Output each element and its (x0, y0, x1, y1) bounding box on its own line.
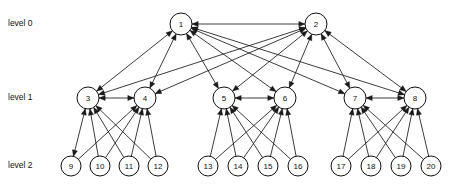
edge-1-3 (97, 31, 173, 91)
node-11[interactable]: 11 (119, 156, 139, 176)
node-label-7: 7 (353, 94, 358, 103)
node-label-5: 5 (222, 94, 227, 103)
node-12[interactable]: 12 (148, 156, 168, 176)
edge-line (244, 107, 279, 158)
node-label-14: 14 (234, 162, 243, 171)
arrowhead-to-3 (98, 90, 105, 95)
edge-line (78, 105, 137, 159)
node-9[interactable]: 9 (61, 156, 81, 176)
node-label-3: 3 (86, 94, 91, 103)
node-label-20: 20 (427, 162, 436, 171)
arrowhead-to-3 (88, 109, 93, 116)
node-14[interactable]: 14 (228, 156, 248, 176)
edge-2-3 (98, 27, 305, 95)
arrowhead-to-6 (269, 86, 276, 92)
node-3[interactable]: 3 (77, 87, 99, 109)
edge-2-4 (155, 28, 306, 93)
edge-4-12 (146, 109, 156, 156)
arrowhead-to-4 (128, 95, 134, 100)
node-20[interactable]: 20 (421, 156, 441, 176)
arrowhead-to-5 (218, 109, 223, 116)
edge-4-9 (78, 105, 137, 159)
arrowhead-to-6 (286, 109, 291, 116)
level-label-level-2: level 2 (8, 160, 33, 170)
edge-2-5 (233, 31, 308, 91)
edge-6-14 (244, 107, 279, 158)
node-label-8: 8 (413, 94, 418, 103)
edge-7-19 (361, 107, 395, 158)
arrowhead-to-2 (321, 34, 326, 41)
level-label-level-1: level 1 (8, 92, 33, 102)
node-18[interactable]: 18 (361, 156, 381, 176)
node-17[interactable]: 17 (331, 156, 351, 176)
edge-line (321, 34, 350, 89)
edge-line (403, 109, 413, 156)
arrowhead-to-7 (356, 109, 361, 116)
edge-2-7 (321, 34, 350, 89)
arrowhead-to-8 (409, 109, 414, 116)
arrowhead-to-5 (233, 85, 239, 91)
arrowhead-to-4 (150, 81, 155, 88)
edge-line (418, 109, 429, 157)
edge-3-9 (72, 109, 86, 157)
edge-line (289, 34, 311, 88)
node-7[interactable]: 7 (344, 87, 366, 109)
arrowhead-to-1 (192, 21, 198, 26)
arrowhead-to-7 (349, 109, 354, 116)
node-6[interactable]: 6 (274, 87, 296, 109)
node-label-2: 2 (314, 20, 319, 29)
node-4[interactable]: 4 (134, 87, 156, 109)
edge-line (191, 27, 404, 94)
edge-4-10 (106, 107, 139, 157)
edge-line (98, 27, 305, 94)
edge-line (73, 109, 85, 157)
edge-7-8 (366, 95, 404, 100)
arrowhead-to-4 (139, 109, 144, 116)
edge-8-20 (416, 109, 428, 157)
arrowhead-to-8 (400, 86, 407, 92)
node-label-16: 16 (294, 162, 303, 171)
edge-line (147, 109, 156, 156)
node-label-17: 17 (337, 162, 346, 171)
hierarchy-graph-diagram: 1234567891011121314151617181920 level 0l… (0, 0, 462, 187)
arrowhead-to-7 (366, 95, 372, 100)
edge-6-16 (286, 109, 296, 156)
edge-line (210, 109, 221, 157)
arrowhead-to-2 (299, 21, 305, 26)
node-10[interactable]: 10 (90, 156, 110, 176)
arrowhead-to-5 (235, 95, 241, 100)
arrowhead-to-1 (166, 31, 172, 37)
arrowhead-to-6 (268, 95, 274, 100)
arrowhead-to-6 (278, 109, 283, 116)
node-8[interactable]: 8 (404, 87, 426, 109)
edge-line (343, 109, 353, 156)
node-13[interactable]: 13 (198, 156, 218, 176)
arrowhead-to-3 (81, 109, 86, 116)
edges-layer (72, 21, 428, 159)
node-label-1: 1 (179, 20, 184, 29)
node-19[interactable]: 19 (391, 156, 411, 176)
edge-line (150, 34, 176, 88)
arrowhead-to-1 (187, 34, 192, 41)
node-1[interactable]: 1 (170, 13, 192, 35)
node-15[interactable]: 15 (258, 156, 278, 176)
arrowhead-to-5 (213, 82, 218, 89)
nodes-layer: 1234567891011121314151617181920 (61, 13, 441, 176)
node-label-18: 18 (367, 162, 376, 171)
node-label-9: 9 (69, 162, 74, 171)
arrowhead-to-2 (325, 31, 332, 37)
level-label-level-0: level 0 (8, 18, 33, 28)
edge-3-4 (99, 95, 134, 100)
node-2[interactable]: 2 (305, 13, 327, 35)
node-label-19: 19 (397, 162, 406, 171)
edge-3-11 (94, 107, 124, 157)
edge-1-2 (192, 21, 305, 26)
node-16[interactable]: 16 (288, 156, 308, 176)
node-label-13: 13 (204, 162, 213, 171)
arrowhead-to-9 (72, 150, 77, 157)
edge-line (363, 105, 423, 159)
edge-7-20 (363, 105, 423, 159)
edge-line (94, 107, 124, 157)
edge-line (106, 107, 139, 157)
node-5[interactable]: 5 (213, 87, 235, 109)
